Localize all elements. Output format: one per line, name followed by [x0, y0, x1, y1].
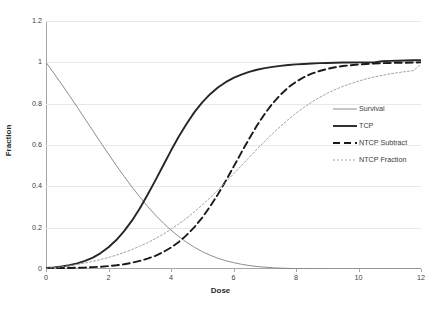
chart-figure: 00.20.40.60.811.2 024681012 Dose Fractio…	[0, 0, 441, 309]
chart-legend: SurvivalTCPNTCP SubtractNTCP Fraction	[332, 100, 438, 168]
legend-swatch-icon	[332, 138, 358, 148]
x-tick-mark	[46, 269, 47, 272]
y-axis-title: Fraction	[4, 111, 13, 171]
y-tick-label: 0	[8, 265, 42, 273]
x-tick-label: 12	[406, 273, 436, 282]
legend-item-survival[interactable]: Survival	[332, 100, 438, 117]
legend-label: Survival	[358, 104, 385, 113]
y-tick-label: 1	[8, 58, 42, 66]
y-tick-label: 0.4	[8, 182, 42, 190]
y-tick-label: 0.6	[8, 141, 42, 149]
x-tick-mark	[296, 269, 297, 272]
x-tick-mark	[234, 269, 235, 272]
y-tick-label: 1.2	[8, 17, 42, 25]
y-tick-label: 0.2	[8, 224, 42, 232]
legend-swatch-icon	[332, 104, 358, 114]
x-tick-mark	[109, 269, 110, 272]
x-tick-mark	[421, 269, 422, 272]
legend-swatch-icon	[332, 121, 358, 131]
x-tick-mark	[171, 269, 172, 272]
legend-label: NTCP Subtract	[358, 138, 407, 147]
x-tick-label: 2	[94, 273, 124, 282]
x-tick-label: 4	[156, 273, 186, 282]
x-tick-label: 0	[31, 273, 61, 282]
x-axis-title: Dose	[0, 286, 441, 295]
x-tick-mark	[359, 269, 360, 272]
x-tick-label: 8	[281, 273, 311, 282]
legend-label: TCP	[358, 121, 373, 130]
legend-label: NTCP Fraction	[358, 155, 406, 164]
legend-swatch-icon	[332, 155, 358, 165]
legend-item-ntcp-fraction[interactable]: NTCP Fraction	[332, 151, 438, 168]
legend-item-ntcp-subtract[interactable]: NTCP Subtract	[332, 134, 438, 151]
y-tick-label: 0.8	[8, 100, 42, 108]
x-tick-label: 6	[219, 273, 249, 282]
legend-item-tcp[interactable]: TCP	[332, 117, 438, 134]
x-tick-label: 10	[344, 273, 374, 282]
